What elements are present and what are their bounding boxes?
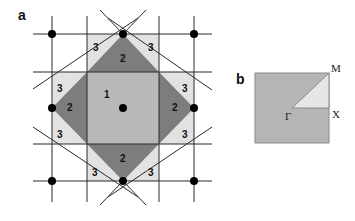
m-point-label: M (331, 62, 341, 74)
zone-3-label: 3 (148, 167, 154, 178)
zone-3-label: 3 (93, 42, 99, 53)
panel-b-label: b (236, 71, 245, 87)
x-point-label: X (332, 108, 340, 120)
figure: a (0, 0, 355, 221)
zone-3-label: 3 (57, 129, 63, 140)
zone-3-label: 3 (92, 167, 98, 178)
zone-3-label: 3 (182, 83, 188, 94)
zone-2-label-left: 2 (67, 102, 73, 113)
zone-3-label: 3 (182, 129, 188, 140)
zone-2-label-top: 2 (120, 53, 126, 64)
zone-3-label: 3 (148, 42, 154, 53)
panel-a-label: a (18, 7, 26, 23)
zone-1-label: 1 (104, 89, 110, 100)
zone-3-label: 3 (57, 83, 63, 94)
zone-2-label-right: 2 (172, 102, 178, 113)
zone-2-label-bottom: 2 (120, 153, 126, 164)
gamma-point-label: Γ (285, 110, 291, 122)
